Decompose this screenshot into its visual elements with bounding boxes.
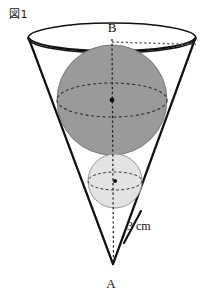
large-sphere-group [57, 45, 167, 155]
label-point-b: B [108, 20, 117, 35]
label-point-a: A [106, 276, 116, 291]
small-sphere-group [88, 154, 142, 208]
cone-sphere-diagram: B A 3 cm [0, 0, 220, 298]
figure-container: 図1 B [0, 0, 220, 298]
label-measurement: 3 cm [127, 219, 151, 233]
